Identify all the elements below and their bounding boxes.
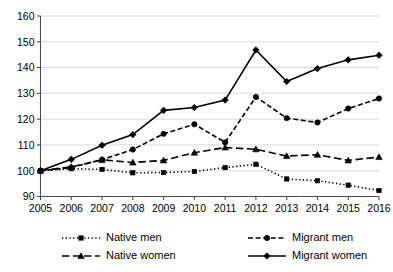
x-tick-label: 2008	[121, 202, 145, 214]
x-tick-label: 2014	[306, 202, 330, 214]
x-tick-label: 2010	[183, 202, 207, 214]
line-chart: 90100110120130140150160 2005200620072008…	[0, 0, 393, 272]
data-point-marker	[376, 52, 383, 59]
legend-item-native-women[interactable]: Native women	[62, 249, 176, 261]
data-point-marker	[223, 165, 227, 169]
data-point-marker	[346, 183, 350, 187]
data-point-marker	[161, 170, 165, 174]
data-point-marker	[315, 120, 320, 125]
series-line	[41, 164, 380, 190]
data-point-marker	[377, 188, 381, 192]
y-tick-label: 90	[23, 190, 35, 202]
data-point-marker	[131, 171, 135, 175]
data-point-marker	[314, 65, 321, 72]
axes	[37, 16, 379, 200]
x-tick-label: 2012	[244, 202, 268, 214]
data-point-marker	[254, 162, 258, 166]
gridlines	[41, 16, 380, 197]
series-native-men	[38, 162, 381, 193]
data-point-marker	[99, 142, 106, 149]
data-point-marker	[69, 165, 74, 170]
y-tick-label: 100	[17, 165, 35, 177]
y-tick-label: 120	[17, 113, 35, 125]
x-tick-label: 2011	[214, 202, 237, 214]
legend-item-migrant-women[interactable]: Migrant women	[248, 249, 367, 261]
y-tick-label: 110	[18, 139, 35, 151]
legend-label: Migrant women	[292, 249, 367, 261]
data-point-marker	[284, 115, 289, 120]
data-point-marker	[345, 57, 352, 64]
legend-label: Native men	[106, 231, 162, 243]
x-tick-label: 2005	[29, 202, 53, 214]
data-point-marker	[161, 131, 166, 136]
data-point-marker	[192, 169, 196, 173]
x-tick-label: 2007	[90, 202, 114, 214]
legend-item-migrant-men[interactable]: Migrant men	[248, 231, 353, 243]
y-tick-label: 130	[17, 87, 35, 99]
data-point-marker	[284, 177, 288, 181]
x-tick-label: 2016	[367, 202, 391, 214]
legend-label: Migrant men	[292, 231, 353, 243]
y-tick-label: 140	[17, 61, 35, 73]
legend-label: Native women	[106, 249, 176, 261]
data-point-marker	[130, 147, 135, 152]
x-tick-label: 2009	[152, 202, 176, 214]
series-line	[41, 50, 380, 171]
y-tick-label: 150	[17, 36, 35, 48]
x-tick-label: 2015	[337, 202, 361, 214]
chart-legend: Native menMigrant menNative womenMigrant…	[62, 231, 367, 261]
x-tick-label: 2013	[275, 202, 299, 214]
x-axis-tick-labels: 2005200620072008200920102011201220132014…	[29, 202, 391, 214]
data-point-marker	[68, 156, 75, 163]
x-tick-label: 2006	[60, 202, 84, 214]
data-point-marker	[264, 253, 271, 260]
legend-item-native-men[interactable]: Native men	[62, 231, 162, 243]
data-point-marker	[222, 140, 227, 145]
data-point-marker	[99, 157, 104, 162]
data-point-marker	[253, 94, 258, 99]
y-axis-tick-labels: 90100110120130140150160	[17, 10, 35, 203]
data-point-marker	[315, 179, 319, 183]
data-point-marker	[79, 236, 83, 240]
series-line	[41, 97, 380, 171]
data-point-marker	[100, 167, 104, 171]
data-point-marker	[376, 96, 381, 101]
data-point-marker	[376, 154, 383, 160]
data-point-marker	[191, 104, 198, 111]
series-migrant-men	[38, 94, 382, 173]
data-point-marker	[346, 106, 351, 111]
series-migrant-women	[37, 47, 382, 174]
data-point-marker	[264, 235, 269, 240]
chart-canvas: 90100110120130140150160 2005200620072008…	[0, 0, 393, 272]
y-tick-label: 160	[17, 10, 35, 22]
data-point-marker	[192, 122, 197, 127]
